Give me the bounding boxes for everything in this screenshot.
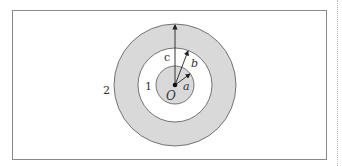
label-region-1: 1: [145, 80, 152, 93]
label-region-2: 2: [103, 84, 110, 97]
label-b: b: [191, 57, 198, 70]
label-c: c: [164, 51, 170, 64]
label-a: a: [183, 80, 190, 93]
center-point: [173, 83, 178, 88]
concentric-circles-diagram: c b a O 1 2: [0, 0, 342, 166]
label-center-O: O: [166, 89, 176, 103]
